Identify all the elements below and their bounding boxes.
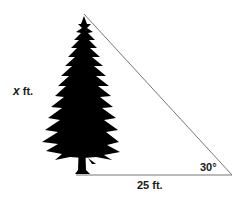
base-length-label: 25 ft. [137, 179, 163, 191]
angle-label: 30° [200, 161, 217, 173]
triangle-diagram: x ft. 25 ft. 30° [0, 0, 244, 198]
height-label: x ft. [12, 84, 33, 98]
